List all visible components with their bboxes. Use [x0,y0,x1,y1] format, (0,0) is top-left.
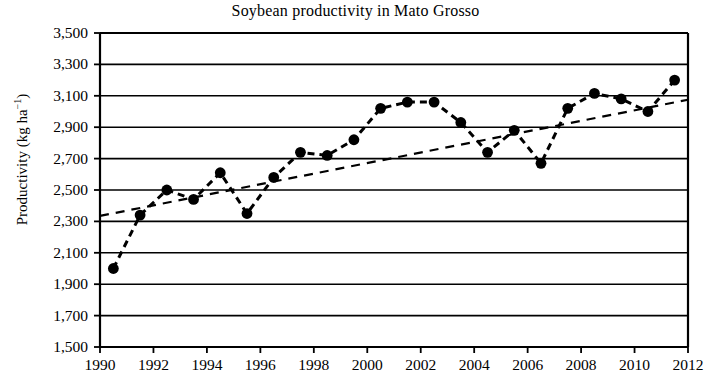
data-point [455,117,466,128]
gridlines [100,64,688,347]
data-point [135,210,146,221]
data-point [562,103,573,114]
data-point [669,75,680,86]
data-point [402,97,413,108]
data-point [242,208,253,219]
data-point [429,97,440,108]
data-point [108,263,119,274]
data-point [322,150,333,161]
data-point [589,88,600,99]
chart-container: Soybean productivity in Mato Grosso Prod… [0,0,711,383]
data-point [215,167,226,178]
data-point-markers [108,75,680,274]
data-point [349,134,360,145]
data-point [482,147,493,158]
data-point [268,172,279,183]
data-point [188,194,199,205]
data-point [643,106,654,117]
plot-area [0,0,711,383]
data-polyline [113,80,674,268]
data-line-series [113,80,674,268]
data-point [161,185,172,196]
data-point [375,103,386,114]
data-point [509,125,520,136]
data-point [536,158,547,169]
data-point [295,147,306,158]
data-point [616,94,627,105]
